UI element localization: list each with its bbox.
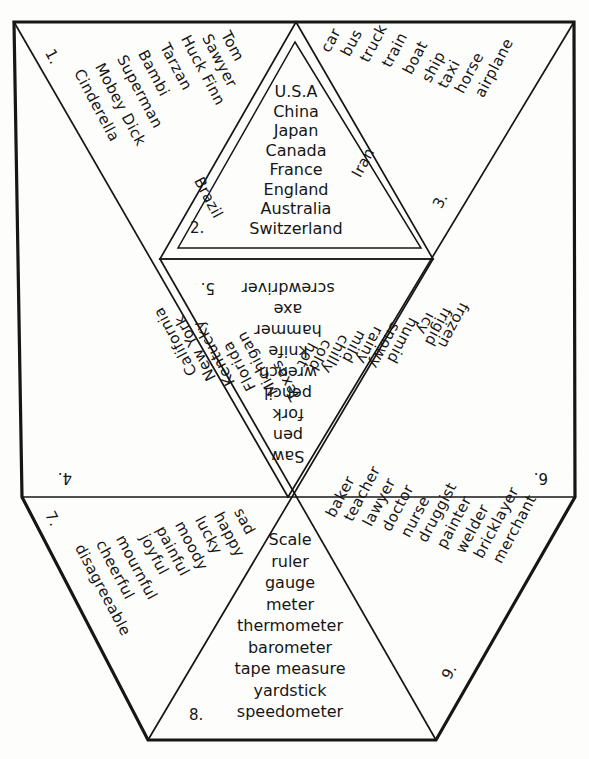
panel-5-word: hammer [254, 320, 322, 341]
panel-5-word: Saw [271, 446, 304, 467]
panel-8-number: 8. [189, 706, 203, 724]
panel-8-word: barometer [248, 637, 332, 659]
panel-5-word: fork [272, 404, 303, 425]
panel-2-word: China [273, 102, 319, 122]
panel-8-word: Scale [268, 529, 311, 551]
panel-2-word: Australia [261, 199, 332, 219]
panel-8-word: speedometer [237, 701, 343, 723]
panel-2-word: England [264, 180, 329, 200]
panel-8-word: thermometer [237, 615, 343, 637]
panel-2-word: France [269, 160, 322, 180]
panel-8-word: yardstick [254, 680, 327, 702]
worksheet-sheet: 1. Tom Sawyer Huck Finn Tarzan Bambi Sup… [0, 0, 589, 759]
panel-5-word: pen [273, 425, 303, 446]
panel-4-number: 4. [58, 469, 72, 487]
panel-2-number: 2. [190, 219, 204, 237]
panel-8-word: ruler [271, 551, 309, 573]
panel-2-wordlist: U.S.A China Japan Canada France England … [249, 82, 342, 238]
panel-2-word: U.S.A [275, 82, 318, 102]
panel-8-word: meter [266, 594, 314, 616]
panel-5-word: pencil [264, 383, 312, 404]
panel-8-word: tape measure [235, 658, 346, 680]
panel-2-word: Canada [266, 141, 327, 161]
panel-5-word: axe [274, 299, 303, 320]
panel-8-wordlist: Scale ruler gauge meter thermometer baro… [235, 529, 346, 723]
panel-5-word: screwdriver [241, 278, 334, 299]
panel-2-word: Japan [274, 121, 319, 141]
panel-2-word: Switzerland [249, 219, 342, 239]
panel-8-word: gauge [265, 572, 315, 594]
panel-6-number: 6. [534, 469, 548, 487]
panel-5-number: 5. [201, 279, 215, 297]
